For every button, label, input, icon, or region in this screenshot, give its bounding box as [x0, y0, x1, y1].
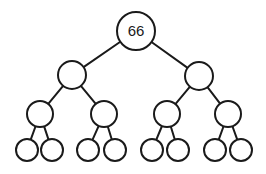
- tree-edge: [31, 126, 36, 139]
- tree-edge: [81, 86, 96, 104]
- tree-edge: [232, 126, 237, 139]
- binary-tree-diagram: 66: [0, 0, 266, 174]
- tree-edges: [31, 42, 238, 140]
- tree-edge: [156, 126, 162, 140]
- tree-edge: [219, 126, 224, 139]
- node-circle: [27, 101, 53, 127]
- node-circle: [167, 139, 189, 161]
- tree-edge: [92, 126, 98, 140]
- tree-edge: [108, 126, 112, 139]
- tree-node: [167, 139, 189, 161]
- node-circle: [58, 61, 86, 89]
- tree-edge: [171, 126, 175, 139]
- tree-node: [16, 139, 38, 161]
- tree-edge: [48, 86, 63, 104]
- tree-node: [27, 101, 53, 127]
- tree-node: [154, 101, 180, 127]
- node-circle: [141, 139, 163, 161]
- tree-edge: [44, 126, 48, 139]
- tree-node: [204, 139, 226, 161]
- tree-node: [215, 101, 241, 127]
- node-circle: [77, 139, 99, 161]
- tree-node: [91, 101, 117, 127]
- tree-node: [141, 139, 163, 161]
- node-label: 66: [128, 22, 145, 39]
- node-circle: [16, 139, 38, 161]
- tree-nodes: 66: [16, 12, 252, 161]
- node-circle: [204, 139, 226, 161]
- tree-edge: [207, 87, 220, 104]
- tree-node: [230, 139, 252, 161]
- node-circle: [185, 62, 213, 90]
- node-circle: [230, 139, 252, 161]
- node-circle: [91, 101, 117, 127]
- root-node: 66: [117, 12, 155, 50]
- tree-node: [41, 139, 63, 161]
- tree-node: [58, 61, 86, 89]
- tree-node: [185, 62, 213, 90]
- tree-edge: [175, 87, 190, 104]
- tree-edge: [151, 42, 187, 68]
- tree-node: [104, 139, 126, 161]
- node-circle: [41, 139, 63, 161]
- node-circle: [215, 101, 241, 127]
- tree-edge: [84, 42, 121, 67]
- tree-node: [77, 139, 99, 161]
- node-circle: [154, 101, 180, 127]
- node-circle: [104, 139, 126, 161]
